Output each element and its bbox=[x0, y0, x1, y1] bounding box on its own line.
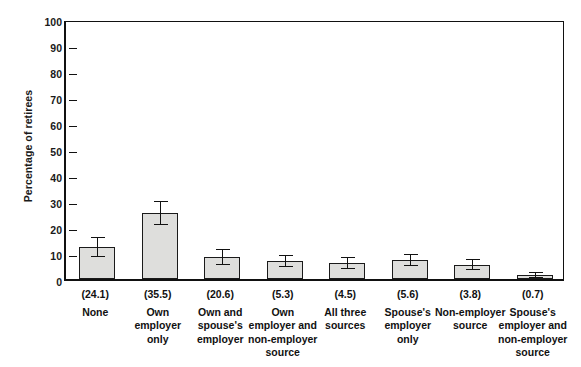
y-axis-tick-label: 80 bbox=[36, 67, 62, 81]
error-bar bbox=[222, 250, 223, 265]
error-bar-cap-bottom bbox=[404, 265, 418, 266]
error-bar bbox=[410, 255, 411, 266]
x-axis-category-line: non-employer bbox=[495, 333, 572, 347]
bar-group bbox=[267, 19, 303, 279]
y-axis-tick-mark bbox=[69, 204, 77, 205]
x-axis-category-line: Spouse's bbox=[495, 306, 572, 320]
error-bar-cap-top bbox=[216, 249, 230, 250]
error-bar bbox=[285, 256, 286, 266]
error-bar-cap-top bbox=[341, 257, 355, 258]
y-axis-tick-mark bbox=[69, 178, 77, 179]
x-axis-category-line: source bbox=[245, 346, 322, 360]
error-bar-cap-top bbox=[91, 237, 105, 238]
error-bar-cap-bottom bbox=[466, 269, 480, 270]
error-bar-cap-top bbox=[154, 201, 168, 202]
plot-area: 0102030405060708090100 bbox=[64, 21, 564, 281]
error-bar-cap-bottom bbox=[529, 277, 543, 278]
error-bar-cap-bottom bbox=[216, 264, 230, 265]
y-axis-tick-mark bbox=[69, 100, 77, 101]
bar-group bbox=[204, 19, 240, 279]
bar-group bbox=[392, 19, 428, 279]
y-axis-title: Percentage of retirees bbox=[22, 46, 34, 246]
y-axis-tick-mark bbox=[69, 256, 77, 257]
y-axis-tick-label: 30 bbox=[36, 197, 62, 211]
error-bar-cap-top bbox=[466, 259, 480, 260]
y-axis-tick-mark bbox=[69, 230, 77, 231]
x-axis-category-line: only bbox=[370, 333, 447, 347]
error-bar bbox=[347, 258, 348, 268]
x-axis-label: (0.7)Spouse'semployer andnon-employersou… bbox=[495, 288, 572, 360]
y-axis-tick-mark bbox=[69, 48, 77, 49]
x-axis-category-line: source bbox=[495, 346, 572, 360]
y-axis-tick-mark bbox=[69, 152, 77, 153]
error-bar-cap-top bbox=[529, 272, 543, 273]
y-axis-tick-label: 100 bbox=[36, 15, 62, 29]
error-bar-cap-top bbox=[404, 254, 418, 255]
error-bar-cap-bottom bbox=[91, 256, 105, 257]
y-axis-tick-label: 50 bbox=[36, 145, 62, 159]
y-axis-tick-label: 40 bbox=[36, 171, 62, 185]
bar-group bbox=[454, 19, 490, 279]
bar-group bbox=[142, 19, 178, 279]
x-axis-secondary-label: (0.7) bbox=[495, 288, 572, 302]
y-axis-tick-label: 10 bbox=[36, 249, 62, 263]
y-axis-tick-mark bbox=[69, 126, 77, 127]
bar-chart-figure: Percentage of retirees 01020304050607080… bbox=[0, 0, 581, 367]
x-axis-category-line: employer and bbox=[495, 319, 572, 333]
bar-group bbox=[329, 19, 365, 279]
bar-group bbox=[79, 19, 115, 279]
y-axis-tick-label: 20 bbox=[36, 223, 62, 237]
y-axis-tick-label: 90 bbox=[36, 41, 62, 55]
error-bar-cap-top bbox=[279, 255, 293, 256]
y-axis-tick-mark bbox=[69, 74, 77, 75]
x-axis-category-line: non-employer bbox=[245, 333, 322, 347]
error-bar bbox=[472, 260, 473, 269]
bar-group bbox=[517, 19, 553, 279]
error-bar bbox=[535, 273, 536, 278]
error-bar bbox=[97, 238, 98, 256]
error-bar-cap-bottom bbox=[279, 266, 293, 267]
error-bar-cap-bottom bbox=[154, 224, 168, 225]
y-axis-tick-label: 0 bbox=[36, 275, 62, 289]
y-axis-tick-label: 60 bbox=[36, 119, 62, 133]
y-axis-tick-label: 70 bbox=[36, 93, 62, 107]
error-bar-cap-bottom bbox=[341, 268, 355, 269]
error-bar bbox=[160, 202, 161, 224]
